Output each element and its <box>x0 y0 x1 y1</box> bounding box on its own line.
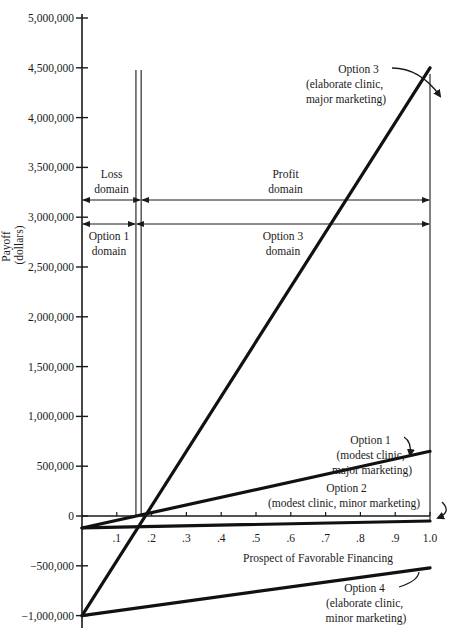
x-tick-label: .1 <box>112 532 121 544</box>
series-line <box>82 521 430 528</box>
x-tick-label: .6 <box>286 532 295 544</box>
x-axis-ticks: .1.2.3.4.5.6.7.8.91.0 <box>112 512 437 544</box>
svg-text:Option 4 (elaborate clin: Option 4 (elaborate clinic, minor market… <box>326 582 407 625</box>
domain-brackets: LossdomainProfitdomainOption 1domainOpti… <box>83 168 429 257</box>
svg-text:Option 1 (modest clinic,: Option 1 (modest clinic, major marketing… <box>332 434 412 477</box>
payoff-chart: 5,000,0004,500,0004,000,0003,500,0003,00… <box>0 0 456 628</box>
x-tick-label: .4 <box>217 532 226 544</box>
annotation-option-2: Option 2 (modest clinic, minor marketing… <box>268 482 446 518</box>
y-tick-label: 500,000 <box>37 460 75 473</box>
x-tick-label: .7 <box>321 532 330 544</box>
domain-label: Profitdomain <box>268 168 303 195</box>
svg-text:Option 3 (elaborate clin: Option 3 (elaborate clinic, major market… <box>306 63 386 106</box>
y-tick-label: 2,500,000 <box>28 261 74 274</box>
x-tick-label: .9 <box>391 532 400 544</box>
annotation-option-1: Option 1 (modest clinic, major marketing… <box>332 434 412 477</box>
x-tick-label: .2 <box>147 532 156 544</box>
domain-label: Lossdomain <box>94 168 129 195</box>
y-tick-label: 0 <box>68 510 74 522</box>
x-axis-label: Prospect of Favorable Financing <box>243 552 393 565</box>
x-tick-label: .5 <box>252 532 261 544</box>
y-axis-label: Payoff (dollars) <box>0 225 26 264</box>
x-tick-label: .8 <box>356 532 365 544</box>
y-tick-label: 2,000,000 <box>28 311 74 324</box>
y-tick-label: 4,500,000 <box>28 62 74 75</box>
y-tick-label: 4,000,000 <box>28 112 74 125</box>
y-tick-label: 5,000,000 <box>28 12 74 25</box>
y-tick-label: 1,500,000 <box>28 361 74 374</box>
y-tick-label: 1,000,000 <box>28 410 74 423</box>
x-tick-label: .3 <box>182 532 191 544</box>
y-tick-label: −500,000 <box>30 560 74 573</box>
y-tick-label: −1,000,000 <box>22 610 75 623</box>
y-tick-label: 3,500,000 <box>28 161 74 174</box>
svg-text:Option 2 (modest clinic,: Option 2 (modest clinic, minor marketing… <box>268 482 420 510</box>
domain-label: Option 1domain <box>89 230 130 257</box>
y-tick-label: 3,000,000 <box>28 211 74 224</box>
y-axis-ticks: 5,000,0004,500,0004,000,0003,500,0003,00… <box>22 12 89 623</box>
curved-arrow-icon <box>438 502 446 518</box>
domain-label: Option 3domain <box>263 230 304 257</box>
curved-arrow-icon <box>399 572 419 587</box>
x-tick-label: 1.0 <box>423 532 438 544</box>
